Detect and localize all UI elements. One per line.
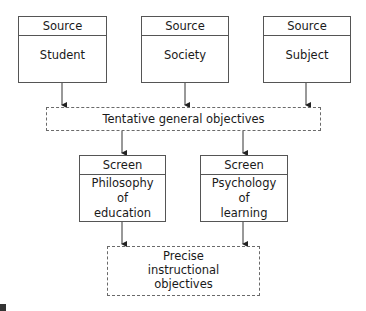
screen-line: of [80, 191, 165, 206]
precise-line: instructional [108, 263, 259, 277]
tentative-objectives-box: Tentative general objectives [46, 107, 321, 131]
precise-line: Precise [108, 249, 259, 263]
screen-line: education [80, 206, 165, 221]
screen-line: Philosophy [80, 176, 165, 191]
source-label: Society [142, 36, 228, 63]
source-label: Student [19, 36, 106, 63]
source-header: Source [19, 17, 106, 36]
tentative-objectives-label: Tentative general objectives [102, 112, 264, 126]
precise-objectives-box: Precise instructional objectives [107, 246, 260, 296]
screen-header: Screen [80, 156, 165, 175]
source-label: Subject [264, 36, 350, 63]
source-header: Source [142, 17, 228, 36]
screen-line: of [201, 191, 287, 206]
screen-line: learning [201, 206, 287, 221]
source-box-society: Source Society [141, 16, 229, 83]
corner-mark [0, 304, 6, 311]
precise-line: objectives [108, 277, 259, 291]
source-box-student: Source Student [18, 16, 107, 83]
source-box-subject: Source Subject [263, 16, 351, 83]
screen-header: Screen [201, 156, 287, 175]
source-header: Source [264, 17, 350, 36]
screen-box-psychology: Screen Psychology of learning [200, 155, 288, 222]
screen-box-philosophy: Screen Philosophy of education [79, 155, 166, 222]
screen-line: Psychology [201, 176, 287, 191]
